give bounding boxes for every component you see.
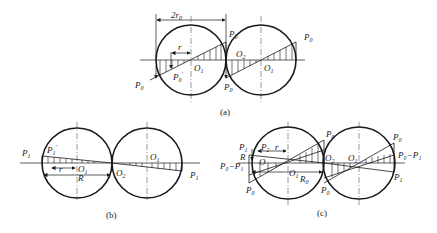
label-o1-right: O1 — [348, 153, 358, 164]
caption-c: (c) — [317, 208, 327, 218]
label-p1-prime: P1′ — [46, 144, 58, 156]
label-o1-right: O1 — [264, 63, 274, 74]
panel-c: P1 P2 r R O P₀−P₁ O1 R0 P0 P0 O2 O1 P0 P… — [219, 122, 421, 218]
label-R0: R0 — [299, 174, 309, 185]
label-p1-right: P1 — [189, 170, 199, 181]
caption-a: (a) — [220, 107, 230, 117]
label-p0-bottom-mid: P0 — [320, 185, 330, 196]
label-p0-minus-p1-right: P₀−P₁ — [397, 150, 421, 160]
panel-b: P1 P1′ r R O1 O2 O1 P1 (b) — [20, 122, 200, 220]
label-o2: O2 — [236, 49, 246, 60]
label-p0-left: P0 — [134, 80, 144, 91]
label-p0-bottom-left: P0 — [245, 185, 255, 196]
label-p0-top: P0 — [228, 29, 238, 40]
label-r: r — [59, 164, 63, 174]
label-p1-right: P1 — [393, 172, 403, 183]
label-o1-left: O1 — [194, 63, 204, 74]
label-p0-top-right: P0 — [392, 132, 402, 143]
label-o1-right: O1 — [150, 152, 160, 163]
label-p0-minus-p1-left: P₀−P₁ — [219, 161, 243, 171]
caption-b: (b) — [106, 210, 117, 220]
label-o2: O2 — [325, 153, 335, 164]
label-o: O — [259, 157, 266, 167]
label-o1-left: O1 — [78, 164, 88, 175]
label-p1-left: P1 — [21, 148, 31, 159]
label-p0-top: P0 — [325, 129, 335, 140]
label-R: R — [77, 173, 84, 183]
label-p0-right: P0 — [303, 32, 313, 43]
label-r: r — [178, 42, 182, 52]
dimension-2r0: 2r0 — [171, 10, 182, 21]
figure-canvas: 2r0 r P0 P0 P0 P0′ P0 O1 O2 O1 (a) — [0, 0, 437, 233]
label-o1: O1 — [289, 168, 299, 179]
label-r: r — [275, 142, 279, 152]
panel-a: 2r0 r P0 P0 P0 P0′ P0 O1 O2 O1 (a) — [134, 10, 313, 117]
label-p2: P2 — [260, 142, 270, 153]
label-p0-bottom: P0 — [223, 82, 233, 93]
label-p0-prime: P0′ — [172, 71, 184, 83]
label-o2: O2 — [116, 168, 126, 179]
